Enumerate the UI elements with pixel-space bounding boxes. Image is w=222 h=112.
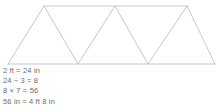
work-line-3: 8 × 7 = 56 [3,86,219,96]
work-line-1: 2 ft = 24 in [3,66,219,76]
zigzag-diagonals [8,6,215,64]
work-line-2: 24 ÷ 3 = 8 [3,76,219,86]
worksheet-canvas: 2 ft = 24 in 24 ÷ 3 = 8 8 × 7 = 56 56 in… [0,0,222,112]
math-work-block: 2 ft = 24 in 24 ÷ 3 = 8 8 × 7 = 56 56 in… [3,66,219,107]
truss-diagram-svg [0,0,222,68]
work-line-4: 56 in = 4 ft 8 in [3,97,219,107]
triangle-truss-figure [0,0,222,68]
